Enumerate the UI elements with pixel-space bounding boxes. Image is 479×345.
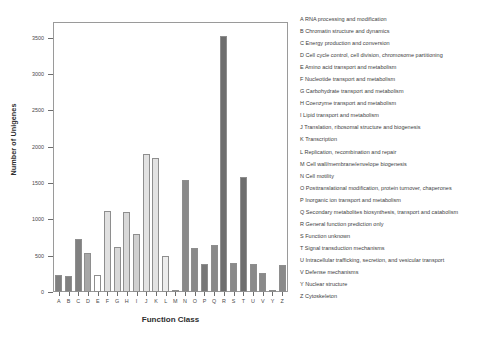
bar-J xyxy=(143,154,150,292)
bar-G xyxy=(114,247,121,292)
chart-page: 0500100015002000250030003500 Number of U… xyxy=(0,0,479,345)
legend-item: G Carbohydrate transport and metabolism xyxy=(300,88,479,100)
bar-K xyxy=(152,158,159,293)
x-axis-tick xyxy=(78,292,79,296)
legend-item: B Chromatin structure and dynamics xyxy=(300,28,479,40)
x-axis-tick xyxy=(156,292,157,296)
x-axis-tick xyxy=(224,292,225,296)
y-axis-tick-label: 3500 xyxy=(10,35,44,41)
legend-item: Z Cytoskeleton xyxy=(300,293,479,305)
bar-S xyxy=(230,263,237,292)
x-axis-tick xyxy=(263,292,264,296)
y-axis-tick xyxy=(48,147,53,148)
legend-item: T Signal transduction mechanisms xyxy=(300,245,479,257)
bar-chart-figure: 0500100015002000250030003500 Number of U… xyxy=(0,0,295,345)
legend-item: O Posttranslational modification, protei… xyxy=(300,185,479,197)
legend-item: S Function unknown xyxy=(300,233,479,245)
x-axis-tick xyxy=(166,292,167,296)
x-axis-tick xyxy=(59,292,60,296)
y-axis-tick xyxy=(48,183,53,184)
x-axis-tick xyxy=(185,292,186,296)
legend-item: Q Secondary metabolites biosynthesis, tr… xyxy=(300,209,479,221)
legend-item: D Cell cycle control, cell division, chr… xyxy=(300,52,479,64)
y-axis-tick xyxy=(48,74,53,75)
legend-item: K Transcription xyxy=(300,136,479,148)
y-axis-tick xyxy=(48,110,53,111)
legend-item: L Replication, recombination and repair xyxy=(300,149,479,161)
x-axis-tick xyxy=(234,292,235,296)
bar-U xyxy=(250,264,257,292)
x-axis-tick xyxy=(69,292,70,296)
x-axis-tick xyxy=(107,292,108,296)
bar-Z xyxy=(279,265,286,292)
x-axis-title: Function Class xyxy=(53,315,288,324)
legend-item: U Intracellular trafficking, secretion, … xyxy=(300,257,479,269)
bar-L xyxy=(162,256,169,292)
y-axis-tick-label: 3000 xyxy=(10,71,44,77)
bars-layer xyxy=(54,23,287,292)
legend-list: A RNA processing and modificationB Chrom… xyxy=(300,16,479,326)
x-axis-tick xyxy=(243,292,244,296)
legend-item: V Defense mechanisms xyxy=(300,269,479,281)
x-axis-tick xyxy=(88,292,89,296)
bar-H xyxy=(123,212,130,292)
y-axis-title: Number of Unigenes xyxy=(9,90,18,190)
legend-item: Y Nuclear structure xyxy=(300,281,479,293)
legend-item: M Cell wall/membrane/envelope biogenesis xyxy=(300,161,479,173)
bar-F xyxy=(104,211,111,292)
legend-item: N Cell motility xyxy=(300,173,479,185)
bar-A xyxy=(55,275,62,292)
legend-item: J Translation, ribosomal structure and b… xyxy=(300,124,479,136)
x-axis-tick xyxy=(127,292,128,296)
x-axis-tick xyxy=(117,292,118,296)
bar-V xyxy=(259,273,266,292)
y-axis-tick xyxy=(48,292,53,293)
bar-P xyxy=(201,264,208,292)
legend-item: I Lipid transport and metabolism xyxy=(300,112,479,124)
bar-Q xyxy=(211,245,218,292)
legend-item: E Amino acid transport and metabolism xyxy=(300,64,479,76)
y-axis-tick-label: 1000 xyxy=(10,216,44,222)
legend-item: R General function prediction only xyxy=(300,221,479,233)
x-axis-tick xyxy=(204,292,205,296)
x-axis-tick xyxy=(282,292,283,296)
x-axis-tick xyxy=(146,292,147,296)
x-axis-tick xyxy=(272,292,273,296)
x-axis-tick xyxy=(175,292,176,296)
x-axis-tick xyxy=(253,292,254,296)
bar-D xyxy=(84,253,91,292)
y-axis-tick-label: 500 xyxy=(10,253,44,259)
bar-O xyxy=(191,248,198,292)
bar-R xyxy=(220,36,227,292)
bar-C xyxy=(75,239,82,292)
x-axis-tick-label: Z xyxy=(275,298,289,304)
bar-E xyxy=(94,275,101,292)
legend-item: C Energy production and conversion xyxy=(300,40,479,52)
y-axis-tick xyxy=(48,256,53,257)
y-axis-tick xyxy=(48,219,53,220)
x-axis-tick xyxy=(195,292,196,296)
legend-item: H Coenzyme transport and metabolism xyxy=(300,100,479,112)
x-axis-tick xyxy=(137,292,138,296)
bar-T xyxy=(240,177,247,292)
legend-item: F Nucleotide transport and metabolism xyxy=(300,76,479,88)
x-axis-tick xyxy=(214,292,215,296)
x-axis-tick xyxy=(98,292,99,296)
bar-B xyxy=(65,276,72,292)
bar-N xyxy=(182,180,189,292)
legend-item: A RNA processing and modification xyxy=(300,16,479,28)
y-axis-tick xyxy=(48,38,53,39)
legend-item: P Inorganic ion transport and metabolism xyxy=(300,197,479,209)
bar-I xyxy=(133,234,140,292)
y-axis-tick-label: 0 xyxy=(10,289,44,295)
